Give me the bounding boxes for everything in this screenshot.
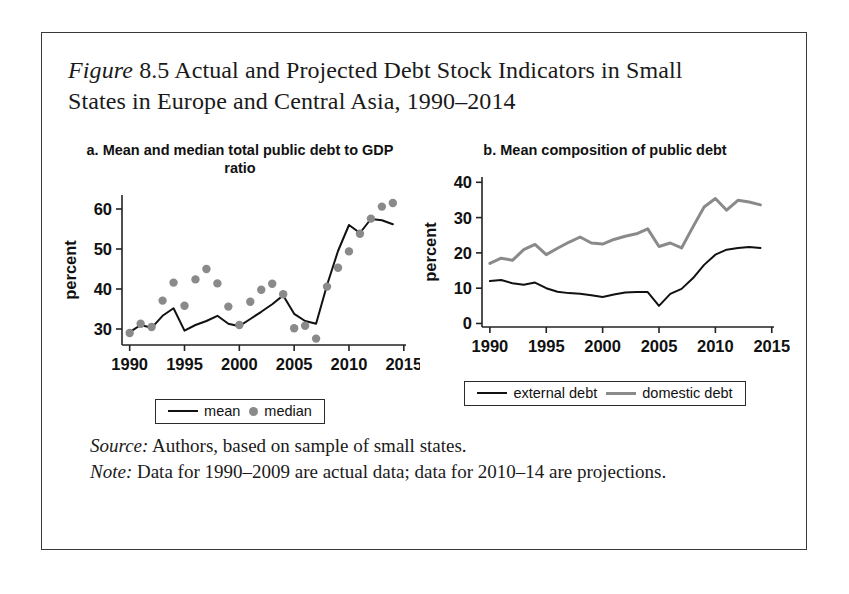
panel-a-legend-row: mean median	[60, 399, 420, 424]
x-tick-label: 2015	[753, 337, 790, 355]
figure-notes: Source: Authors, based on sample of smal…	[68, 433, 768, 485]
y-tick-label: 30	[94, 320, 112, 338]
y-tick-label: 40	[94, 280, 112, 298]
x-tick-label: 2000	[584, 337, 621, 355]
panel-b-svg: 010203040199019952000200520102015percent	[420, 167, 790, 367]
x-tick-label: 2015	[385, 355, 420, 373]
y-tick-label: 30	[454, 209, 472, 227]
panel-b-plot: 010203040199019952000200520102015percent	[420, 167, 790, 367]
y-axis-label: percent	[61, 240, 79, 300]
panel-a-title: a. Mean and median total public debt to …	[60, 141, 420, 177]
dot-swatch-icon	[249, 407, 258, 416]
line-swatch-icon	[168, 410, 198, 412]
figure-label: Figure	[68, 57, 133, 83]
x-tick-label: 1990	[111, 355, 148, 373]
x-tick-label: 2000	[221, 355, 258, 373]
panel-b-legend-row: external debt domestic debt	[420, 381, 790, 406]
x-tick-label: 2010	[697, 337, 734, 355]
panel-a-legend: mean median	[155, 399, 325, 424]
source-line: Source: Authors, based on sample of smal…	[68, 433, 768, 459]
legend-label-mean: mean	[204, 403, 240, 419]
source-label: Source:	[90, 435, 148, 456]
x-tick-label: 1995	[166, 355, 203, 373]
y-tick-label: 60	[94, 200, 112, 218]
panel-a-svg: 30405060199019952000200520102015percent	[60, 185, 420, 385]
legend-item-median: median	[249, 403, 312, 419]
panel-b-title: b. Mean composition of public debt	[420, 141, 790, 159]
y-axis-label: percent	[421, 222, 439, 282]
chart-panel-b: b. Mean composition of public debt 01020…	[420, 141, 790, 406]
legend-item-external-debt: external debt	[477, 385, 597, 401]
note-label: Note:	[90, 461, 132, 482]
legend-label-median: median	[264, 403, 312, 419]
line-swatch-icon	[477, 392, 507, 394]
panel-a-plot: 30405060199019952000200520102015percent	[60, 185, 420, 385]
series-line-external-debt	[490, 247, 761, 306]
chart-panel-a: a. Mean and median total public debt to …	[60, 141, 420, 424]
note-text: Data for 1990–2009 are actual data; data…	[132, 461, 666, 482]
y-tick-label: 50	[94, 240, 112, 258]
legend-label-external-debt: external debt	[513, 385, 597, 401]
y-tick-label: 10	[454, 279, 472, 297]
legend-label-domestic-debt: domestic debt	[642, 385, 732, 401]
note-line: Note: Data for 1990–2009 are actual data…	[68, 459, 768, 485]
x-tick-label: 1990	[472, 337, 509, 355]
panel-b-legend: external debt domestic debt	[464, 381, 745, 406]
source-text: Authors, based on sample of small states…	[148, 435, 466, 456]
y-tick-label: 20	[454, 244, 472, 262]
y-tick-label: 40	[454, 173, 472, 191]
x-tick-label: 1995	[528, 337, 565, 355]
series-line-mean	[130, 219, 393, 332]
figure-frame: Figure 8.5 Actual and Projected Debt Sto…	[41, 32, 807, 550]
series-points-median	[125, 199, 397, 343]
x-tick-label: 2005	[276, 355, 313, 373]
y-tick-label: 0	[463, 314, 472, 332]
x-tick-label: 2010	[331, 355, 368, 373]
legend-item-domestic-debt: domestic debt	[606, 385, 732, 401]
x-tick-label: 2005	[641, 337, 678, 355]
figure-number: 8.5	[139, 57, 169, 83]
figure-title: Figure 8.5 Actual and Projected Debt Sto…	[68, 55, 728, 117]
line-swatch-gray-icon	[606, 392, 636, 395]
legend-item-mean: mean	[168, 403, 240, 419]
